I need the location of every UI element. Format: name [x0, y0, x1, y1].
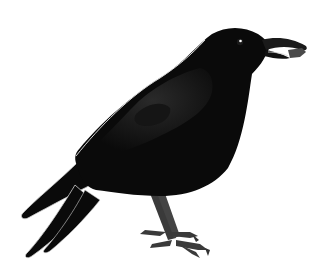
nut	[288, 48, 306, 58]
crow-illustration	[0, 0, 328, 280]
legs	[140, 188, 210, 258]
eye	[237, 39, 243, 45]
